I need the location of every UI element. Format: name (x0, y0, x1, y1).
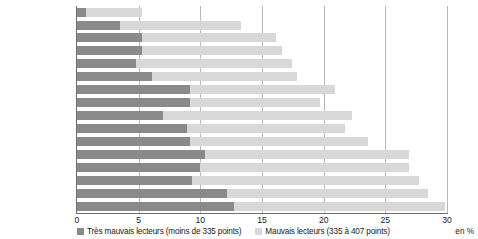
bar-segment-severe (77, 150, 205, 159)
bar-row (77, 135, 447, 148)
plot-area (77, 6, 447, 213)
legend-swatch-icon (77, 228, 84, 235)
bar-segment-severe (77, 59, 136, 68)
bar-segment-severe (77, 137, 190, 146)
x-tick-25: 25 (381, 215, 391, 225)
bar-segment-weak (227, 189, 428, 198)
bar-row (77, 187, 447, 200)
bar-segment-weak (163, 111, 352, 120)
bar-segment-severe (77, 98, 190, 107)
bar-row (77, 58, 447, 71)
bar-segment-severe (77, 85, 190, 94)
bar-segment-weak (192, 176, 419, 185)
x-tick-15: 15 (257, 215, 267, 225)
legend-item: Très mauvais lecteurs (moins de 335 poin… (77, 227, 241, 236)
bar-row (77, 174, 447, 187)
bar-segment-weak (234, 202, 445, 211)
bar-segment-severe (77, 189, 227, 198)
bar-row (77, 6, 447, 19)
chart-legend: Très mauvais lecteurs (moins de 335 poin… (77, 227, 404, 236)
legend-swatch-icon (255, 228, 262, 235)
y-axis-line (76, 6, 77, 214)
bar-segment-weak (187, 124, 345, 133)
bar-row (77, 148, 447, 161)
bar-row (77, 32, 447, 45)
bar-row (77, 110, 447, 123)
bar-segment-severe (77, 202, 234, 211)
axis-unit-label: en % (455, 227, 474, 236)
bar-segment-weak (142, 33, 275, 42)
bar-chart: FinlandeIrlandePays-BasSuèdeDanemarkPolo… (0, 0, 478, 239)
bar-segment-weak (190, 98, 320, 107)
x-tick-5: 5 (136, 215, 141, 225)
bar-segment-severe (77, 8, 86, 17)
bar-segment-weak (152, 72, 296, 81)
bar-segment-severe (77, 33, 142, 42)
bar-row (77, 97, 447, 110)
legend-item: Mauvais lecteurs (335 à 407 points) (255, 227, 389, 236)
bar-segment-severe (77, 176, 192, 185)
legend-label: Mauvais lecteurs (335 à 407 points) (265, 227, 389, 236)
legend-label: Très mauvais lecteurs (moins de 335 poin… (87, 227, 241, 236)
bar-segment-severe (77, 124, 187, 133)
x-tick-0: 0 (75, 215, 80, 225)
bar-segment-weak (205, 150, 409, 159)
bar-segment-weak (86, 8, 143, 17)
bar-segment-weak (142, 46, 281, 55)
bar-segment-weak (136, 59, 291, 68)
bar-segment-weak (190, 85, 334, 94)
bar-row (77, 45, 447, 58)
bar-row (77, 19, 447, 32)
bar-segment-weak (120, 21, 241, 30)
bar-segment-weak (190, 137, 368, 146)
bar-row (77, 200, 447, 213)
x-tick-30: 30 (442, 215, 452, 225)
x-axis-line (77, 213, 448, 214)
bar-segment-severe (77, 163, 200, 172)
bar-segment-severe (77, 111, 163, 120)
bar-row (77, 122, 447, 135)
bar-segment-severe (77, 21, 120, 30)
bar-row (77, 161, 447, 174)
x-tick-20: 20 (319, 215, 329, 225)
x-tick-10: 10 (196, 215, 206, 225)
bar-row (77, 71, 447, 84)
bar-segment-severe (77, 46, 142, 55)
gridline-30 (447, 6, 448, 213)
bar-segment-severe (77, 72, 152, 81)
bar-segment-weak (200, 163, 408, 172)
bar-row (77, 84, 447, 97)
